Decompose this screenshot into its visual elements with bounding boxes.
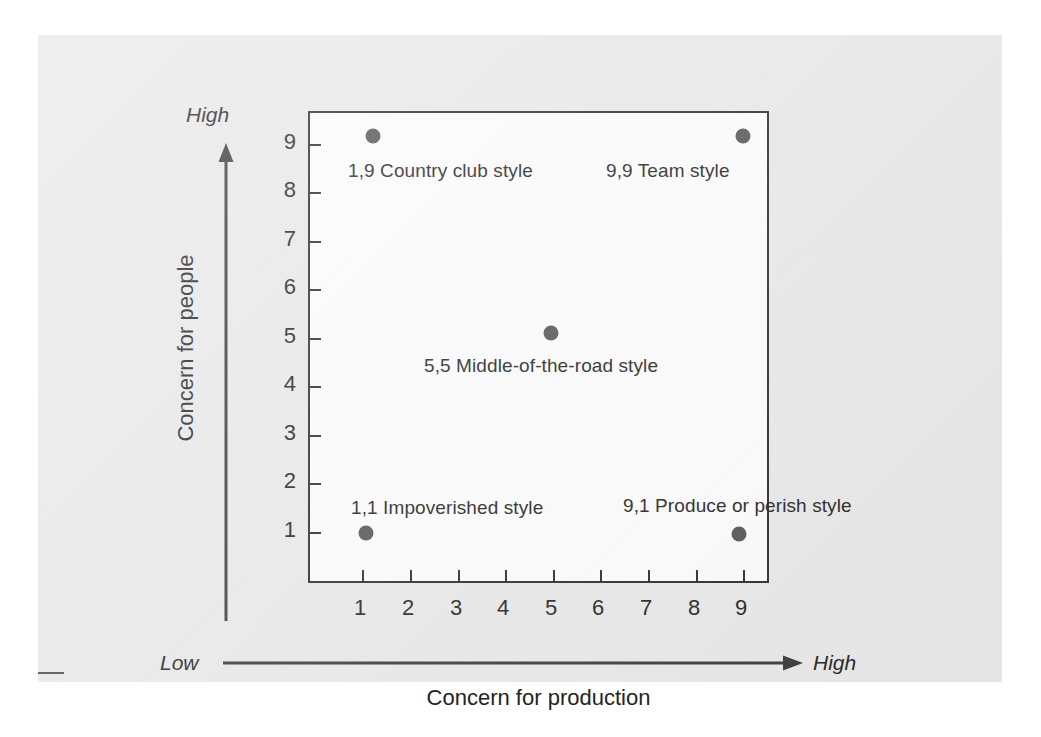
y-tick-2 (310, 483, 321, 485)
x-tick-label-6: 6 (586, 595, 610, 621)
y-axis-arrow-icon (216, 143, 236, 621)
x-tick-label-9: 9 (729, 595, 753, 621)
x-axis-title: Concern for production (308, 685, 769, 711)
y-tick-label-7: 7 (274, 226, 296, 252)
x-tick-8 (696, 570, 698, 581)
y-tick-3 (310, 435, 321, 437)
x-tick-label-4: 4 (491, 595, 515, 621)
x-tick-6 (600, 570, 602, 581)
x-tick-2 (410, 570, 412, 581)
y-tick-4 (310, 386, 321, 388)
y-tick-label-9: 9 (274, 129, 296, 155)
x-axis-arrow-icon (223, 653, 803, 673)
y-tick-label-3: 3 (274, 420, 296, 446)
y-tick-7 (310, 241, 321, 243)
y-tick-label-2: 2 (274, 468, 296, 494)
x-tick-9 (743, 570, 745, 581)
y-tick-label-8: 8 (274, 177, 296, 203)
x-tick-3 (458, 570, 460, 581)
point-label-1-1: 1,1 Impoverished style (351, 497, 543, 519)
y-tick-label-4: 4 (274, 371, 296, 397)
y-axis-title: Concern for people (173, 198, 199, 498)
x-tick-label-1: 1 (348, 595, 372, 621)
y-tick-label-group: 9 8 7 6 5 4 3 2 1 (266, 111, 296, 583)
y-tick-5 (310, 338, 321, 340)
x-tick-label-7: 7 (634, 595, 658, 621)
x-tick-5 (553, 570, 555, 581)
data-point-9-9[interactable] (736, 129, 751, 144)
x-tick-4 (505, 570, 507, 581)
data-point-5-5[interactable] (544, 326, 559, 341)
point-label-9-1: 9,1 Produce or perish style (623, 495, 852, 517)
point-label-9-9: 9,9 Team style (606, 160, 730, 182)
y-tick-6 (310, 289, 321, 291)
x-tick-label-group: 1 2 3 4 5 6 7 8 9 (308, 595, 769, 625)
point-label-5-5: 5,5 Middle-of-the-road style (424, 355, 658, 377)
data-point-1-1[interactable] (359, 526, 374, 541)
data-point-1-9[interactable] (366, 129, 381, 144)
x-tick-7 (648, 570, 650, 581)
x-tick-label-3: 3 (444, 595, 468, 621)
y-tick-1 (310, 532, 321, 534)
y-tick-8 (310, 192, 321, 194)
x-tick-label-8: 8 (682, 595, 706, 621)
data-point-9-1[interactable] (732, 527, 747, 542)
y-axis-high-marker: High (186, 103, 229, 127)
y-tick-label-6: 6 (274, 274, 296, 300)
y-tick-label-5: 5 (274, 323, 296, 349)
x-tick-1 (362, 570, 364, 581)
y-tick-label-1: 1 (274, 517, 296, 543)
point-label-1-9: 1,9 Country club style (348, 160, 533, 182)
x-axis-low-marker: Low (160, 651, 199, 675)
figure-panel: High Concern for people 9 8 7 6 5 4 3 2 … (38, 35, 1002, 682)
x-axis-high-marker: High (813, 651, 856, 675)
y-tick-9 (310, 144, 321, 146)
margin-rule (38, 672, 64, 674)
x-tick-label-2: 2 (396, 595, 420, 621)
x-tick-label-5: 5 (539, 595, 563, 621)
